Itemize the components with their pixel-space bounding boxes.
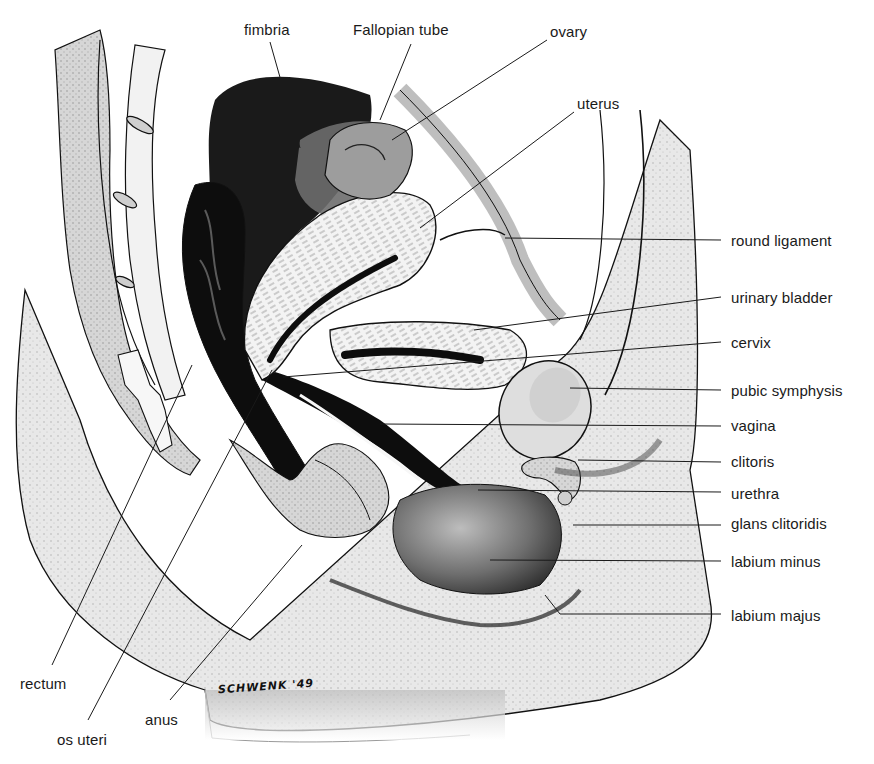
perineum (230, 440, 389, 538)
label-round-ligament: round ligament (731, 233, 832, 248)
label-rectum: rectum (20, 676, 66, 691)
leader-line-ovary (392, 40, 547, 140)
label-labium-minus: labium minus (731, 554, 821, 569)
label-glans-clitoridis: glans clitoridis (731, 516, 827, 531)
label-clitoris: clitoris (731, 454, 774, 469)
anatomical-diagram: fimbria Fallopian tube ovary uterus roun… (0, 0, 874, 764)
label-fimbria: fimbria (244, 22, 290, 37)
label-urinary-bladder: urinary bladder (731, 290, 833, 305)
label-urethra: urethra (731, 486, 779, 501)
label-ovary: ovary (550, 24, 587, 39)
ovary-fallopian-tube (325, 123, 412, 199)
label-uterus: uterus (577, 96, 619, 111)
label-fallopian-tube: Fallopian tube (353, 22, 449, 37)
label-vagina: vagina (731, 418, 776, 433)
urinary-bladder (330, 322, 526, 390)
label-cervix: cervix (731, 335, 771, 350)
label-pubic-symphysis: pubic symphysis (731, 383, 843, 398)
label-os-uteri: os uteri (57, 732, 107, 747)
label-labium-majus: labium majus (731, 608, 821, 623)
sacrum-coccyx (55, 30, 200, 475)
label-anus: anus (145, 712, 178, 727)
